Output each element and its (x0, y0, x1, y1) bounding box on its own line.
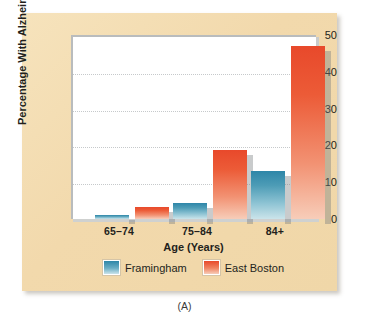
legend-label-east-boston: East Boston (225, 262, 284, 274)
x-axis-label: Age (Years) (71, 241, 316, 253)
x-tick-label-84-plus: 84+ (227, 225, 323, 237)
bar-face (213, 150, 247, 219)
y-axis-label: Percentage With Alzheimer's Disease (16, 0, 28, 125)
chart-legend: Framingham East Boston (71, 260, 316, 275)
plot-area (73, 37, 316, 219)
bar-east-boston-84-plus[interactable] (291, 46, 325, 219)
legend-label-framingham: Framingham (125, 262, 187, 274)
gridline-30 (73, 111, 316, 113)
legend-swatch-framingham (103, 260, 120, 275)
bar-framingham-75-84[interactable] (173, 203, 207, 219)
legend-item-east-boston[interactable]: East Boston (203, 260, 284, 275)
plot-frame-shadow-bottom (73, 219, 319, 222)
legend-swatch-east-boston (203, 260, 220, 275)
bar-face (173, 203, 207, 219)
bar-face (95, 215, 129, 219)
bar-face (291, 46, 325, 219)
bar-east-boston-75-84[interactable] (213, 150, 247, 219)
plot-frame (71, 35, 316, 219)
gridline-20 (73, 147, 316, 149)
bar-face (251, 171, 285, 219)
bar-side-face (129, 220, 135, 224)
chart-panel: Percentage With Alzheimer's Disease 50 4… (22, 13, 337, 291)
bar-side-face (325, 51, 331, 224)
figure-caption: (A) (0, 300, 369, 312)
gridline-40 (73, 74, 316, 76)
bar-east-boston-65-74[interactable] (135, 207, 169, 220)
bar-framingham-84-plus[interactable] (251, 171, 285, 219)
figure-container: Percentage With Alzheimer's Disease 50 4… (0, 0, 369, 330)
bar-framingham-65-74[interactable] (95, 215, 129, 219)
legend-item-framingham[interactable]: Framingham (103, 260, 187, 275)
bar-face (135, 207, 169, 220)
